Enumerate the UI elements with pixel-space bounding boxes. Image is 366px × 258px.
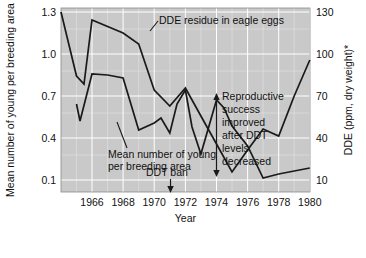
ytick-left-2: 1.0: [41, 48, 56, 60]
ddt-ban-label: DDT ban: [146, 166, 188, 178]
ytick-left-3: 0.7: [41, 90, 56, 102]
ytick-left-1: 1.3: [41, 6, 56, 18]
xtick-1974: 1974: [205, 196, 229, 208]
reproductive-annotation-line-2: success: [222, 103, 260, 115]
xtick-1978: 1978: [267, 196, 291, 208]
y-axis-title-left: Mean number of young per breeding area: [4, 3, 16, 197]
reproductive-annotation-line-5: levels: [222, 142, 249, 154]
ytick-right-3: 70: [316, 90, 328, 102]
ytick-left-4: 0.4: [41, 132, 56, 144]
y-axis-title-right: DDE (ppm, dry weight)*: [342, 45, 354, 155]
x-axis-title: Year: [175, 212, 197, 224]
reproductive-annotation-line-4: after DDT: [222, 129, 268, 141]
reproductive-annotation-line-6: decreased: [222, 155, 271, 167]
chart-container: DDE residue in eagle eggs Mean number of…: [0, 0, 366, 258]
xtick-1980: 1980: [298, 196, 322, 208]
ytick-right-2: 100: [316, 48, 334, 60]
ytick-right-5: 10: [316, 174, 328, 186]
xtick-1976: 1976: [236, 196, 260, 208]
xtick-1968: 1968: [111, 196, 135, 208]
chart-figure: DDE residue in eagle eggs Mean number of…: [0, 0, 366, 258]
ytick-right-4: 40: [316, 132, 328, 144]
reproductive-annotation-line-1: Reproductive: [222, 90, 284, 102]
reproductive-annotation-line-3: improved: [222, 116, 265, 128]
xtick-1970: 1970: [143, 196, 167, 208]
young-series-label-line1: Mean number of young: [108, 148, 216, 160]
xtick-1966: 1966: [80, 196, 104, 208]
dde-series-label: DDE residue in eagle eggs: [159, 14, 284, 26]
ytick-left-5: 0.1: [41, 174, 56, 186]
ytick-right-1: 130: [316, 6, 334, 18]
xtick-1972: 1972: [174, 196, 198, 208]
